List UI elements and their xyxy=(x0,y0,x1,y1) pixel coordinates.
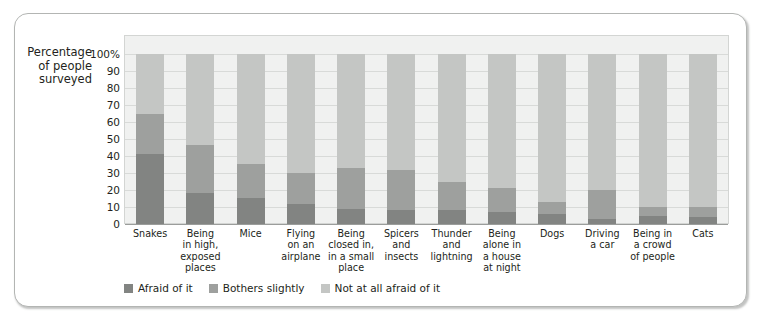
bar-segment xyxy=(538,202,566,214)
bar-segment xyxy=(488,212,516,224)
y-tick-label-100: 100% xyxy=(76,48,120,60)
x-axis-label-line: and xyxy=(427,239,477,250)
y-tick-label-20: 20 xyxy=(80,184,120,196)
bar-column[interactable] xyxy=(488,54,516,224)
gridline-0 xyxy=(125,224,728,225)
x-axis-label: Being ina crowdof people xyxy=(628,228,678,262)
x-axis-label-line: Thunder xyxy=(427,228,477,239)
bar-segment xyxy=(337,209,365,224)
y-tick-label-30: 30 xyxy=(80,167,120,179)
bar-column[interactable] xyxy=(387,54,415,224)
bar-segment xyxy=(337,54,365,168)
x-axis-label-line: at night xyxy=(477,262,527,273)
x-axis-label-line: Being in xyxy=(628,228,678,239)
bar-segment xyxy=(588,190,616,219)
x-axis-label-line: insects xyxy=(376,251,426,262)
bar-segment xyxy=(136,154,164,224)
x-axis-label-line: alone in xyxy=(477,239,527,250)
x-axis-label: Beingalone ina houseat night xyxy=(477,228,527,274)
legend-swatch-icon xyxy=(124,284,133,293)
y-tick-label-90: 90 xyxy=(80,65,120,77)
legend-swatch-icon xyxy=(209,284,218,293)
x-axis-label-line: airplane xyxy=(276,251,326,262)
bar-segment xyxy=(387,54,415,170)
bar-column[interactable] xyxy=(538,54,566,224)
stacked-bar-chart: Percentage of people surveyed 100%908070… xyxy=(0,0,763,322)
legend-item-not_afraid[interactable]: Not at all afraid of it xyxy=(321,282,441,294)
y-tick-label-10: 10 xyxy=(80,201,120,213)
x-axis-label: Beingin high,exposedplaces xyxy=(175,228,225,274)
x-axis-label-line: closed in, xyxy=(326,239,376,250)
x-axis-labels: SnakesBeingin high,exposedplacesMiceFlyi… xyxy=(125,228,728,280)
x-axis-label-line: place xyxy=(326,262,376,273)
bar-segment xyxy=(639,54,667,207)
legend-swatch-icon xyxy=(321,284,330,293)
legend-label: Afraid of it xyxy=(138,282,193,294)
figure-page: Percentage of people surveyed 100%908070… xyxy=(0,0,763,322)
bar-column[interactable] xyxy=(136,54,164,224)
bar-segment xyxy=(237,54,265,164)
bar-segment xyxy=(538,54,566,202)
x-axis-label-line: a house xyxy=(477,251,527,262)
legend-item-afraid[interactable]: Afraid of it xyxy=(124,282,193,294)
bar-column[interactable] xyxy=(689,54,717,224)
bar-segment xyxy=(588,54,616,190)
bar-segment xyxy=(488,54,516,188)
bar-segment xyxy=(588,219,616,224)
x-axis-label-line: Snakes xyxy=(125,228,175,239)
bar-column[interactable] xyxy=(237,54,265,224)
bar-segment xyxy=(186,54,214,145)
bar-segment xyxy=(639,216,667,224)
bar-segment xyxy=(689,207,717,217)
bar-segment xyxy=(488,188,516,212)
bar-segment xyxy=(387,210,415,224)
x-axis-label-line: on an xyxy=(276,239,326,250)
y-tick-label-0: 0 xyxy=(80,218,120,230)
x-axis-label-line: Being xyxy=(477,228,527,239)
x-axis-label-line: places xyxy=(175,262,225,273)
y-tick-label-60: 60 xyxy=(80,116,120,128)
bar-segment xyxy=(689,217,717,224)
y-tick-label-70: 70 xyxy=(80,99,120,111)
bar-column[interactable] xyxy=(438,54,466,224)
bar-column[interactable] xyxy=(588,54,616,224)
bar-segment xyxy=(639,207,667,216)
bar-segment xyxy=(136,54,164,114)
legend-item-bothers[interactable]: Bothers slightly xyxy=(209,282,305,294)
legend-label: Not at all afraid of it xyxy=(335,282,441,294)
bar-segment xyxy=(337,168,365,209)
x-axis-label-line: a car xyxy=(577,239,627,250)
bar-segment xyxy=(136,114,164,155)
bar-segment xyxy=(237,198,265,224)
x-axis-label-line: Flying xyxy=(276,228,326,239)
x-axis-label: Mice xyxy=(226,228,276,239)
y-axis-ticks: 100%9080706050403020100 xyxy=(76,54,120,224)
x-axis-label-line: Cats xyxy=(678,228,728,239)
x-axis-label-line: Being xyxy=(326,228,376,239)
bar-column[interactable] xyxy=(337,54,365,224)
x-axis-label-line: Being xyxy=(175,228,225,239)
bar-segment xyxy=(538,214,566,224)
x-axis-label-line: in high, xyxy=(175,239,225,250)
y-tick-label-80: 80 xyxy=(80,82,120,94)
bar-column[interactable] xyxy=(639,54,667,224)
x-axis-label-line: of people xyxy=(628,251,678,262)
x-axis-label-line: lightning xyxy=(427,251,477,262)
bar-segment xyxy=(287,204,315,224)
y-tick-label-50: 50 xyxy=(80,133,120,145)
x-axis-label-line: a crowd xyxy=(628,239,678,250)
x-axis-label: Dogs xyxy=(527,228,577,239)
bar-column[interactable] xyxy=(186,54,214,224)
x-axis-label-line: Driving xyxy=(577,228,627,239)
bar-segment xyxy=(438,54,466,182)
bar-segment xyxy=(186,145,214,193)
bar-segment xyxy=(689,54,717,207)
x-axis-label: Snakes xyxy=(125,228,175,239)
x-axis-label-line: in a small xyxy=(326,251,376,262)
chart-legend: Afraid of itBothers slightlyNot at all a… xyxy=(124,282,449,294)
y-tick-label-40: 40 xyxy=(80,150,120,162)
x-axis-label-line: Spicers xyxy=(376,228,426,239)
bar-column[interactable] xyxy=(287,54,315,224)
bar-segment xyxy=(438,182,466,210)
x-axis-label: Cats xyxy=(678,228,728,239)
